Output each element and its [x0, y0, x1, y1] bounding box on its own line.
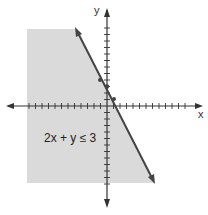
point-marker — [98, 78, 102, 82]
y-axis-up-arrow-icon — [104, 8, 110, 17]
boundary-arrow-top-icon — [75, 27, 82, 37]
point-marker — [105, 84, 109, 88]
inequality-label: 2x + y ≤ 3 — [44, 131, 96, 145]
y-axis-down-arrow-icon — [104, 199, 110, 208]
inequality-graph — [0, 0, 208, 215]
point-marker — [112, 97, 116, 101]
x-axis-label: x — [198, 108, 204, 120]
x-axis-left-arrow-icon — [6, 103, 14, 109]
y-axis-label: y — [94, 4, 100, 16]
